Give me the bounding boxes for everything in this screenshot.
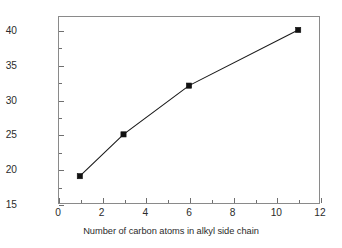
data-series-layer xyxy=(58,16,320,204)
data-point-marker xyxy=(186,83,191,88)
x-axis-tick-label: 12 xyxy=(307,207,333,218)
x-axis-tick-label: 0 xyxy=(45,207,71,218)
x-axis-tick-label: 4 xyxy=(132,207,158,218)
x-axis-tick-label: 10 xyxy=(263,207,289,218)
y-axis-tick-major xyxy=(59,205,64,206)
data-point-marker xyxy=(77,174,82,179)
x-axis-tick-label: 8 xyxy=(220,207,246,218)
x-axis-tick-major xyxy=(321,198,322,203)
y-axis-tick-label: 35 xyxy=(0,59,17,70)
x-axis-tick-label: 2 xyxy=(89,207,115,218)
y-axis-tick-label: 40 xyxy=(0,24,17,35)
x-axis-tick-label: 6 xyxy=(176,207,202,218)
data-point-marker xyxy=(121,132,126,137)
x-axis-label: Number of carbon atoms in alkyl side cha… xyxy=(0,226,342,236)
chart-figure: Inclination angle of polyimide backbone … xyxy=(0,0,342,248)
y-axis-tick-label: 20 xyxy=(0,164,17,175)
y-axis-tick-label: 30 xyxy=(0,94,17,105)
y-axis-tick-label: 25 xyxy=(0,129,17,140)
series-line-inclination-angle xyxy=(80,30,298,176)
data-point-marker xyxy=(296,27,301,32)
series-markers-group xyxy=(77,27,301,178)
y-axis-tick-label: 15 xyxy=(0,199,17,210)
